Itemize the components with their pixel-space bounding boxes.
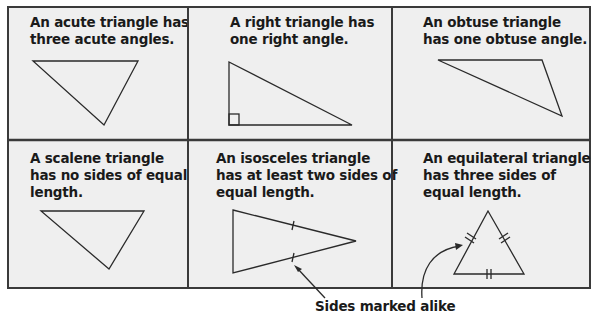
acute-triangle-description: An acute triangle has three acute angles… xyxy=(30,14,189,48)
right-triangle-description: A right triangle has one right angle. xyxy=(230,14,374,48)
triangle-classification-grid xyxy=(7,6,591,289)
obtuse-triangle-description: An obtuse triangle has one obtuse angle. xyxy=(423,14,587,48)
isosceles-triangle-description: An isosceles triangle has at least two s… xyxy=(216,150,397,201)
scalene-triangle-description: A scalene triangle has no sides of equal… xyxy=(30,150,187,201)
equilateral-triangle-description: An equilateral triangle has three sides … xyxy=(423,150,591,201)
sides-marked-alike-caption: Sides marked alike xyxy=(315,298,455,314)
